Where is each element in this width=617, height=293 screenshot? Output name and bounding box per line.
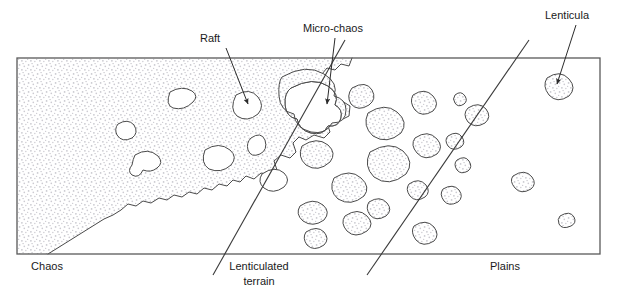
zone-label-group: Chaos Lenticulated terrain Plains [31, 260, 520, 287]
raft-blob [260, 169, 288, 191]
lenticula-blob [411, 91, 436, 114]
lenticula-callout-arrow [557, 25, 576, 84]
zone-label-plains: Plains [490, 260, 520, 272]
lenticula-blob [349, 84, 374, 108]
micro-chaos-callout-label: Micro-chaos [303, 22, 363, 34]
lenticula-blob [441, 186, 461, 204]
raft-callout-label: Raft [200, 32, 220, 44]
lenticula-blob [413, 134, 441, 158]
lenticula-callout-label: Lenticula [545, 9, 590, 21]
raft-blob [116, 121, 136, 140]
terrain-transition-diagram: Raft Micro-chaos Lenticula Chaos Lenticu… [0, 0, 617, 293]
lenticula-blob-small [454, 93, 467, 106]
zone-label-chaos: Chaos [31, 260, 63, 272]
lenticula-blob [300, 141, 333, 169]
lenticula-blob [412, 222, 437, 244]
zone-label-lenticulated-terrain-line2: terrain [243, 275, 274, 287]
lenticula-blob [367, 146, 410, 182]
lenticula-blob [366, 107, 404, 140]
lenticula-blob [298, 201, 327, 224]
lenticula-blob-small [558, 213, 575, 227]
lenticula-blob [511, 172, 534, 192]
lenticula-blob [367, 199, 390, 219]
lenticula-blob [332, 173, 367, 202]
lenticula-blob [455, 158, 471, 173]
raft-blob-labeled [233, 91, 262, 119]
lenticula-blob [304, 229, 327, 249]
lenticula-blob [343, 212, 371, 236]
zone-label-lenticulated-terrain: Lenticulated [229, 260, 288, 272]
